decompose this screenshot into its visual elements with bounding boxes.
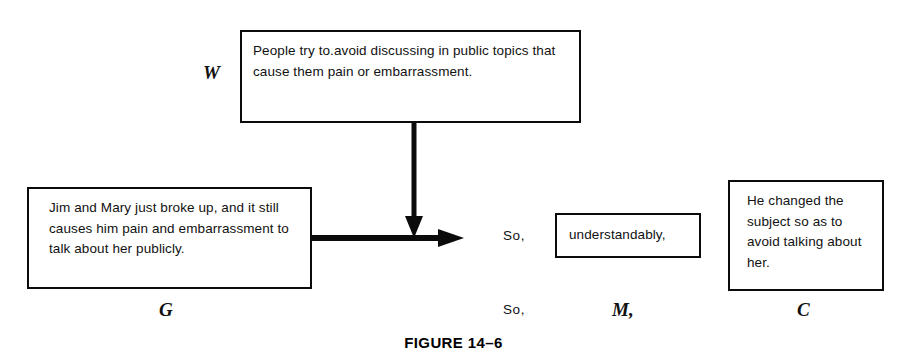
warrant-symbol-label: W [203,63,220,82]
modal-qualifier-symbol-label: M, [612,300,634,319]
grounds-to-claim-arrow [312,229,464,247]
grounds-arrow-head [438,229,464,247]
warrant-to-inference-arrow [405,123,423,238]
figure-caption-text: FIGURE 14–6 [404,334,503,351]
warrant-arrow-head [405,216,423,238]
warrant-box: People try to.avoid discussing in public… [240,30,581,123]
figure-diagram: People try to.avoid discussing in public… [0,0,913,364]
grounds-symbol-label: G [159,300,173,319]
so-connective-top: So, [503,229,525,243]
figure-caption: FIGURE 14–6 [0,334,913,351]
grounds-box: Jim and Mary just broke up, and it still… [27,187,312,289]
so-connective-bottom: So, [503,303,525,317]
claim-box: He changed the subject so as to avoid ta… [728,180,884,291]
modal-qualifier-box: understandably, [555,213,701,258]
claim-symbol-label: C [797,300,810,319]
